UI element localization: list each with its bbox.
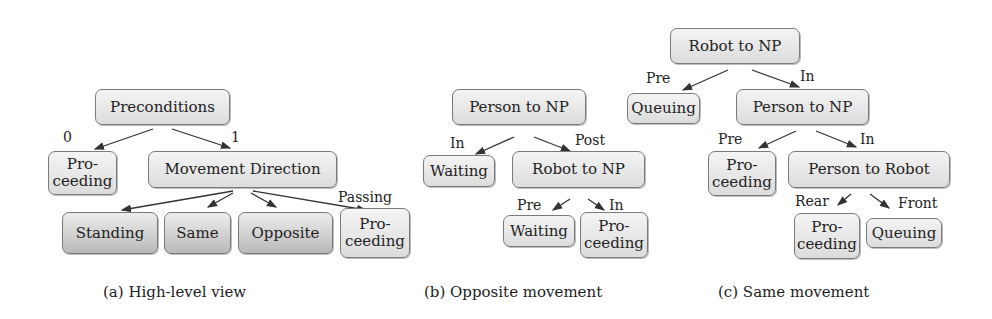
edge-b-in2 bbox=[588, 199, 604, 210]
node-preconditions: Preconditions bbox=[95, 89, 230, 125]
caption-a: (a) High-level view bbox=[103, 283, 246, 301]
node-proceeding-passing: Pro- ceeding bbox=[340, 208, 410, 258]
edge-label-in-c: In bbox=[800, 69, 815, 83]
edge-c-pre bbox=[683, 70, 728, 90]
node-person-to-np-c: Person to NP bbox=[736, 89, 869, 125]
edge-label-in-c2: In bbox=[860, 132, 875, 146]
edge-c-rear bbox=[838, 194, 851, 205]
node-waiting: Waiting bbox=[423, 155, 495, 187]
edge-label-1: 1 bbox=[231, 130, 240, 144]
edge-label-0: 0 bbox=[63, 130, 72, 144]
edge-c-in2 bbox=[816, 131, 856, 147]
node-proceeding-c2: Pro- ceeding bbox=[794, 213, 860, 259]
node-robot-to-np-c: Robot to NP bbox=[670, 28, 800, 64]
node-movement-direction: Movement Direction bbox=[148, 151, 337, 188]
node-proceeding-c: Pro- ceeding bbox=[708, 151, 776, 196]
node-proceeding-b: Pro- ceeding bbox=[580, 212, 648, 258]
node-same: Same bbox=[164, 212, 231, 254]
edge-c-front bbox=[870, 194, 889, 208]
edge-c-pre2 bbox=[759, 131, 796, 148]
node-person-to-np: Person to NP bbox=[452, 89, 586, 125]
edge-b-post bbox=[534, 137, 570, 151]
node-person-to-robot: Person to Robot bbox=[788, 151, 950, 188]
edge-label-pre-c2: Pre bbox=[718, 132, 742, 146]
edge-a-1 bbox=[172, 129, 230, 148]
node-queuing: Queuing bbox=[627, 93, 700, 124]
edge-a-opposite bbox=[251, 193, 276, 207]
node-opposite: Opposite bbox=[238, 212, 333, 254]
node-robot-to-np: Robot to NP bbox=[512, 151, 645, 188]
edge-label-in: In bbox=[450, 136, 465, 150]
edge-b-pre bbox=[553, 199, 570, 210]
edge-label-pre: Pre bbox=[517, 198, 541, 212]
node-queuing-2: Queuing bbox=[866, 218, 942, 248]
edge-c-in bbox=[752, 70, 799, 87]
node-waiting-2: Waiting bbox=[503, 215, 575, 247]
edge-label-pre-c: Pre bbox=[646, 71, 670, 85]
edge-a-0 bbox=[95, 129, 153, 149]
node-standing: Standing bbox=[62, 212, 158, 254]
edge-label-passing: Passing bbox=[338, 190, 392, 204]
edge-a-standing bbox=[122, 191, 233, 210]
edge-label-front: Front bbox=[898, 196, 937, 210]
edge-label-in-2: In bbox=[609, 198, 624, 212]
edge-label-rear: Rear bbox=[795, 194, 829, 208]
edge-label-post: Post bbox=[575, 133, 605, 147]
caption-b: (b) Opposite movement bbox=[424, 283, 602, 301]
edge-b-in bbox=[476, 137, 514, 154]
caption-c: (c) Same movement bbox=[718, 283, 869, 301]
node-proceeding: Pro- ceeding bbox=[48, 151, 117, 195]
